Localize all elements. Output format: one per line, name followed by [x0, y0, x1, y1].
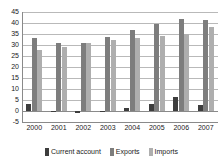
bar [130, 30, 135, 111]
bar-group [194, 12, 219, 122]
bar [154, 24, 159, 111]
bar [209, 27, 214, 111]
y-axis-tick-label: 0 [0, 107, 19, 114]
y-axis-tick-label: 40 [0, 19, 19, 26]
x-axis-tick-label: 2003 [96, 124, 121, 132]
gridline [22, 122, 218, 123]
y-axis-tick-label: -5 [0, 118, 19, 125]
bar [179, 19, 184, 111]
y-axis-tick-label: 20 [0, 63, 19, 70]
bar [100, 111, 105, 112]
bar-group [71, 12, 96, 122]
y-axis-tick-label: 35 [0, 30, 19, 37]
bar [81, 43, 86, 111]
bar [62, 47, 67, 111]
y-axis-tick-label: 25 [0, 52, 19, 59]
bar [32, 38, 37, 111]
x-axis-tick-label: 2001 [47, 124, 72, 132]
legend-swatch-icon [149, 148, 153, 156]
bar [124, 108, 129, 111]
bar [198, 105, 203, 111]
bar [26, 104, 31, 111]
y-axis-tick-label: 30 [0, 41, 19, 48]
plot-area [22, 12, 218, 122]
bar-group [169, 12, 194, 122]
bar-group [145, 12, 170, 122]
bar [86, 43, 91, 111]
x-axis-tick-labels: 20002001200220032004200520062007 [22, 124, 218, 136]
legend-swatch-icon [45, 148, 49, 156]
bar-group [47, 12, 72, 122]
y-axis-tick-labels: 454035302520151050-5 [0, 12, 19, 122]
legend-swatch-icon [110, 148, 114, 156]
legend-label: Exports [116, 148, 140, 156]
bar [111, 40, 116, 111]
x-axis-tick-label: 2007 [194, 124, 219, 132]
bar [51, 111, 56, 112]
bar-group [22, 12, 47, 122]
legend-item: Imports [149, 148, 178, 156]
bar-chart: 454035302520151050-5 2000200120022003200… [0, 0, 223, 162]
bar [184, 34, 189, 111]
bar [75, 111, 80, 113]
x-axis-tick-label: 2005 [145, 124, 170, 132]
legend-label: Current account [51, 148, 101, 156]
bar-group [96, 12, 121, 122]
y-axis-tick-label: 10 [0, 85, 19, 92]
bar [56, 43, 61, 111]
x-axis-tick-label: 2002 [71, 124, 96, 132]
legend-label: Imports [155, 148, 178, 156]
bar-group [120, 12, 145, 122]
bar [173, 97, 178, 111]
y-axis-tick-label: 45 [0, 8, 19, 15]
bar [135, 38, 140, 111]
x-axis-tick-label: 2000 [22, 124, 47, 132]
x-axis-tick-label: 2006 [169, 124, 194, 132]
bar [203, 20, 208, 111]
y-axis-tick-label: 5 [0, 96, 19, 103]
legend-item: Current account [45, 148, 101, 156]
y-axis-line [22, 12, 23, 122]
chart-legend: Current accountExportsImports [0, 146, 223, 158]
bar [160, 36, 165, 111]
y-axis-tick-label: 15 [0, 74, 19, 81]
bar [149, 104, 154, 111]
bar [37, 50, 42, 111]
legend-item: Exports [110, 148, 140, 156]
x-axis-tick-label: 2004 [120, 124, 145, 132]
bar [105, 37, 110, 111]
